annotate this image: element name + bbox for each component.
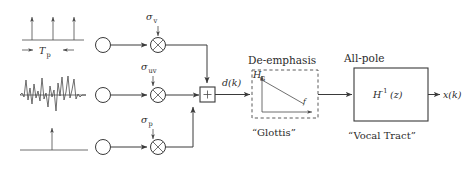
- block-all-pole: All-pole H -1 (z) “Vocal Tract”: [343, 52, 428, 141]
- inset-xlabel: f: [302, 97, 307, 106]
- source-node-plosive: [96, 140, 111, 155]
- wire-plosive-to-summer: [166, 107, 194, 147]
- source-unvoiced-noise: [20, 76, 86, 111]
- all-pole-title: All-pole: [343, 52, 384, 64]
- period-label-subscript: p: [47, 51, 51, 59]
- period-label: T: [39, 45, 46, 56]
- inset-ylabel-subscript: G: [260, 75, 265, 83]
- branch-unvoiced: σ uv: [96, 61, 200, 103]
- source-node-unvoiced: [96, 88, 111, 103]
- source-node-voiced: [96, 38, 111, 53]
- transfer-function-arg: (z): [390, 89, 403, 100]
- noise-waveform: [20, 76, 86, 111]
- de-emphasis-inset-plot: H G f: [252, 69, 312, 112]
- source-plosive-impulse: [20, 128, 88, 150]
- output-signal-label: x(k): [443, 89, 462, 100]
- block-diagram-canvas: T p σ v σ uv: [0, 0, 464, 171]
- block-de-emphasis: De-emphasis H G f “Glottis”: [248, 54, 318, 138]
- source-voiced-impulse-train: T p: [22, 17, 84, 59]
- de-emphasis-caption: “Glottis”: [252, 127, 296, 138]
- gain-subscript-plosive: p: [149, 120, 153, 128]
- inset-response-curve: [262, 80, 304, 104]
- wire-voiced-to-summer: [166, 45, 208, 83]
- all-pole-caption: “Vocal Tract”: [348, 130, 416, 141]
- gain-label-voiced: σ: [146, 11, 153, 22]
- branch-plosive: σ p: [96, 107, 194, 155]
- gain-label-plosive: σ: [141, 114, 148, 125]
- de-emphasis-title: De-emphasis: [248, 54, 316, 66]
- excitation-signal-label: d(k): [222, 77, 242, 88]
- gain-subscript-unvoiced: uv: [149, 67, 157, 75]
- transfer-function-exponent: -1: [381, 87, 387, 95]
- gain-label-unvoiced: σ: [141, 61, 148, 72]
- gain-subscript-voiced: v: [153, 17, 158, 25]
